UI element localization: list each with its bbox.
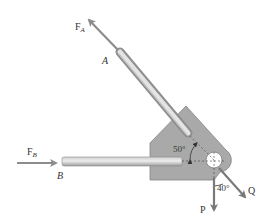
- rod-b: [62, 157, 182, 166]
- rod-a: [119, 52, 188, 135]
- angle-40-label: 40°: [217, 184, 230, 193]
- force-fa-arrow: [89, 20, 118, 50]
- force-fb-label: FB: [27, 147, 37, 159]
- force-p-label: P: [200, 205, 206, 215]
- force-q-label: Q: [248, 186, 255, 196]
- diagram-canvas: [0, 0, 272, 220]
- statics-diagram: FA A FB B 50° 40° P Q: [0, 0, 272, 220]
- point-a-label: A: [102, 56, 108, 66]
- force-fa-label: FA: [75, 22, 85, 34]
- angle-50-label: 50°: [173, 145, 186, 154]
- force-fb-subscript: B: [33, 151, 37, 159]
- force-fa-subscript: A: [81, 26, 85, 34]
- point-b-label: B: [57, 171, 63, 181]
